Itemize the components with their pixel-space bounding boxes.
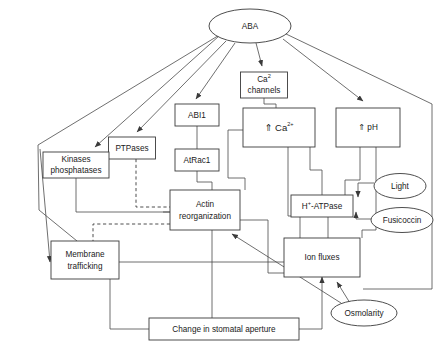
- node-light[interactable]: Light: [374, 174, 426, 199]
- edge-aba-to-ph: [283, 39, 363, 101]
- node-ptpases-label: PTPases: [115, 144, 148, 153]
- aba-signalling-flowchart: ABA Ca2 channels ABI1 ⇑ Ca2+ ⇑ pH: [0, 0, 445, 353]
- node-fusicoccin[interactable]: Fusicoccin: [371, 208, 433, 233]
- node-membrane-trafficking[interactable]: Membrane trafficking: [51, 241, 119, 279]
- node-abi1-label: ABI1: [188, 111, 206, 120]
- edge-kinases-to-actin: [76, 178, 170, 212]
- node-actin-label-line1: Actin: [196, 200, 215, 209]
- node-ca-increase[interactable]: ⇑ Ca2+: [243, 108, 315, 147]
- node-kinases-label-line1: Kinases: [61, 155, 90, 164]
- edge-actin-to-ion-fluxes: [240, 220, 284, 273]
- edge-ptpases-to-actin: [136, 159, 170, 207]
- node-abi1[interactable]: ABI1: [175, 104, 219, 126]
- diagram-canvas: ABA Ca2 channels ABI1 ⇑ Ca2+ ⇑ pH: [0, 0, 445, 353]
- node-kinases-phosphatases[interactable]: Kinases phosphatases: [43, 152, 109, 178]
- node-actin-reorganization[interactable]: Actin reorganization: [170, 190, 240, 230]
- node-ph-increase[interactable]: ⇑ pH: [336, 108, 400, 147]
- edge-ptpases-to-membrane: [93, 224, 170, 241]
- node-membrane-shape: [51, 241, 119, 279]
- edge-membrane-to-aperture: [110, 279, 149, 329]
- node-ptpases[interactable]: PTPases: [109, 137, 156, 159]
- node-aba[interactable]: ABA: [209, 9, 291, 43]
- node-fusicoccin-label: Fusicoccin: [383, 216, 422, 225]
- edges-layer: [40, 36, 376, 329]
- edge-ca-to-hatpase: [310, 147, 322, 195]
- node-aba-label: ABA: [242, 22, 259, 31]
- nodes-layer: ABA Ca2 channels ABI1 ⇑ Ca2+ ⇑ pH: [43, 9, 433, 340]
- node-membrane-label-line1: Membrane: [65, 250, 105, 259]
- edge-atrac1-to-actin: [197, 171, 212, 190]
- node-membrane-label-line2: trafficking: [68, 262, 103, 271]
- node-light-label: Light: [391, 182, 409, 191]
- edge-aba-to-ca-channels: [256, 43, 262, 66]
- node-ion-fluxes[interactable]: Ion fluxes: [284, 238, 360, 277]
- node-actin-label-line2: reorganization: [179, 212, 231, 221]
- edge-ca-channels-to-ca: [264, 98, 276, 108]
- node-ion-fluxes-label: Ion fluxes: [304, 253, 339, 262]
- node-atrac1-label: AtRac1: [184, 156, 211, 165]
- node-ph-increase-label: ⇑ pH: [358, 123, 378, 132]
- edge-light-to-hatpase: [358, 183, 374, 197]
- edge-ca-to-ion-fluxes: [288, 147, 300, 238]
- node-aperture-label: Change in stomatal aperture: [172, 325, 276, 334]
- node-ca-channels[interactable]: Ca2 channels: [241, 72, 288, 98]
- node-kinases-label-line2: phosphatases: [51, 166, 102, 175]
- node-stomatal-aperture[interactable]: Change in stomatal aperture: [149, 318, 299, 340]
- node-ca-channels-label-line2: channels: [248, 86, 281, 95]
- edge-aba-to-kinases: [95, 36, 219, 147]
- node-atrac1[interactable]: AtRac1: [175, 149, 219, 171]
- node-h-atpase[interactable]: H+-ATPase: [291, 195, 353, 217]
- node-osmolarity[interactable]: Osmolarity: [331, 300, 397, 326]
- edge-osmolarity-to-ion-fluxes: [337, 282, 350, 303]
- node-actin-shape: [170, 190, 240, 230]
- edge-fusicoccin-to-hatpase: [356, 212, 371, 219]
- node-osmolarity-label: Osmolarity: [344, 309, 384, 318]
- edge-aperture-to-ion-fluxes: [299, 277, 322, 329]
- edge-ca-to-actin: [228, 130, 245, 190]
